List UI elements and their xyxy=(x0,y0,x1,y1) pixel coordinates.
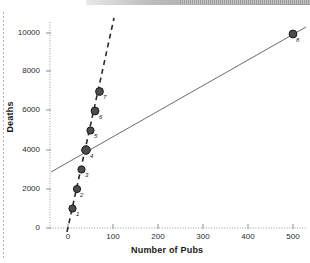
y-tick-label: 0 xyxy=(6,223,40,232)
x-tick-label: 200 xyxy=(143,232,173,241)
data-point-label: 4 xyxy=(90,153,93,159)
y-axis-title: Deaths xyxy=(5,94,15,140)
plot-canvas xyxy=(0,0,310,263)
y-tick-label: 10000 xyxy=(6,28,40,37)
data-point-label: 2 xyxy=(80,192,83,198)
y-tick-label: 4000 xyxy=(6,145,40,154)
y-tick-label: 8000 xyxy=(6,66,40,75)
x-tick-label: 0 xyxy=(53,232,83,241)
data-point-label: 6 xyxy=(99,114,102,120)
x-tick-label: 300 xyxy=(188,232,218,241)
data-point xyxy=(91,107,99,115)
data-point-label: 3 xyxy=(85,172,88,178)
data-point-label: 7 xyxy=(103,94,106,100)
regression-line-subset xyxy=(67,18,114,232)
data-point-label: 1 xyxy=(76,211,79,217)
x-tick-label: 400 xyxy=(233,232,263,241)
x-tick-label: 100 xyxy=(98,232,128,241)
y-axis-ticks xyxy=(46,33,51,228)
scatter-plot: 10000 8000 6000 4000 2000 0 0 100 200 30… xyxy=(0,0,310,263)
x-axis-title: Number of Pubs xyxy=(131,245,203,255)
data-point-label: 8 xyxy=(296,37,299,43)
data-point-label: 5 xyxy=(94,133,97,139)
y-tick-label: 2000 xyxy=(6,184,40,193)
x-tick-label: 500 xyxy=(278,232,308,241)
chart-figure: 10000 8000 6000 4000 2000 0 0 100 200 30… xyxy=(0,0,310,263)
data-point xyxy=(82,146,91,155)
data-point-markers xyxy=(69,30,297,212)
